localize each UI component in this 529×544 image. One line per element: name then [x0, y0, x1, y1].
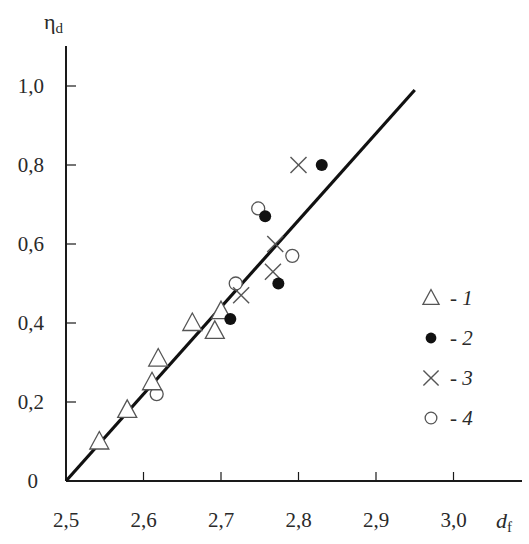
filled-circle-marker [316, 159, 328, 171]
y-tick-label: 0 [28, 469, 39, 493]
triangle-marker [423, 290, 439, 305]
x-tick-label: 2,7 [208, 508, 234, 532]
y-tick-label: 1,0 [18, 74, 44, 98]
x-tick-label: 2,8 [285, 508, 311, 532]
data-points [90, 157, 328, 449]
cross-marker [291, 157, 307, 173]
filled-circle-marker [259, 210, 271, 222]
cross-marker [265, 264, 281, 280]
axis-labels: ηd df [44, 9, 512, 535]
open-circle-marker [286, 249, 299, 262]
triangle-marker [149, 349, 168, 367]
legend-label: - 2 [450, 326, 473, 350]
x-axis-label: df [496, 508, 512, 535]
filled-circle-marker [224, 313, 236, 325]
filled-circle-marker [426, 333, 437, 344]
y-tick-label: 0,8 [18, 153, 44, 177]
y-axis-label: ηd [44, 9, 64, 36]
legend: - 1- 2- 3- 4 [423, 286, 473, 430]
y-tick-label: 0,2 [18, 390, 44, 414]
open-circle-marker [425, 412, 437, 424]
y-tick-label: 0,6 [18, 232, 44, 256]
x-tick-label: 2,9 [363, 508, 389, 532]
cross-marker [423, 370, 438, 385]
filled-circle-marker [272, 278, 284, 290]
x-tick-label: 3,0 [440, 508, 466, 532]
legend-label: - 4 [450, 406, 473, 430]
x-tick-label: 2,6 [130, 508, 156, 532]
legend-label: - 1 [450, 286, 473, 310]
x-tick-label: 2,5 [53, 508, 79, 532]
cross-marker [233, 287, 249, 303]
scatter-chart: 2,52,62,72,82,93,0 00,20,40,60,81,0 ηd d… [0, 0, 529, 544]
cross-marker [267, 236, 283, 252]
triangle-marker [183, 313, 202, 331]
open-circle-marker [229, 277, 242, 290]
y-tick-label: 0,4 [18, 311, 45, 335]
y-ticks: 00,20,40,60,81,0 [18, 74, 76, 493]
legend-label: - 3 [450, 366, 473, 390]
